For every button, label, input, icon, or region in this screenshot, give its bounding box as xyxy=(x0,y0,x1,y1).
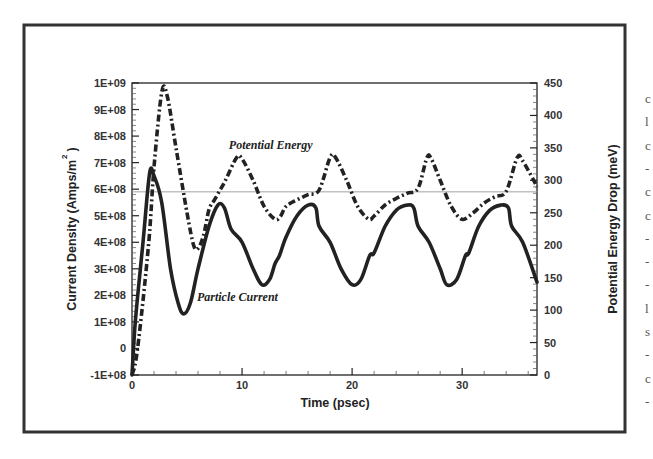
ylabel-superscript: 2 xyxy=(60,154,69,159)
x-tick-label: 0 xyxy=(129,379,135,391)
right-tick-label: 0 xyxy=(544,369,550,381)
right-tick-label: 450 xyxy=(544,77,562,89)
x-tick-label: 20 xyxy=(346,379,358,391)
ylabel-main: Current Density (Amps/m xyxy=(65,160,79,311)
x-tick-label: 30 xyxy=(456,379,468,391)
left-tick-label: 4E+08 xyxy=(94,236,126,248)
particle-current-annotation: Particle Current xyxy=(197,290,279,304)
x-tick-label: 10 xyxy=(236,379,248,391)
ylabel-close: ) xyxy=(65,147,79,151)
edge-character: c xyxy=(645,371,651,386)
right-tick-label: 150 xyxy=(544,272,562,284)
potential-energy-annotation: Potential Energy xyxy=(229,138,313,152)
right-tick-label: 300 xyxy=(544,174,562,186)
edge-character: c xyxy=(645,208,651,223)
left-tick-label: 2E+08 xyxy=(94,289,126,301)
right-y-axis-title: Potential Energy Drop (meV) xyxy=(606,144,620,313)
edge-character: - xyxy=(645,231,649,246)
right-tick-label: 100 xyxy=(544,304,562,316)
left-tick-label: 7E+08 xyxy=(94,157,126,169)
edge-character: s xyxy=(645,324,650,339)
x-axis-title: Time (psec) xyxy=(300,396,369,410)
left-tick-label: 0 xyxy=(120,342,126,354)
left-tick-label: 5E+08 xyxy=(94,210,126,222)
edge-character: - xyxy=(645,254,649,269)
edge-character: c xyxy=(645,91,651,106)
left-tick-label: 1E+09 xyxy=(94,77,126,89)
left-tick-label: 3E+08 xyxy=(94,263,126,275)
right-tick-label: 350 xyxy=(544,142,562,154)
right-tick-label: 250 xyxy=(544,207,562,219)
edge-character: - xyxy=(645,161,649,176)
edge-character: - xyxy=(645,347,649,362)
right-tick-label: 50 xyxy=(544,337,556,349)
adjacent-page-text-fragment: clc-cc---ls-c- xyxy=(645,91,651,409)
edge-character: - xyxy=(645,277,649,292)
left-tick-label: 8E+08 xyxy=(94,130,126,142)
edge-character: c xyxy=(645,138,651,153)
left-tick-label: 6E+08 xyxy=(94,183,126,195)
svg-text:Potential Energy Drop (meV): Potential Energy Drop (meV) xyxy=(606,144,620,313)
edge-character: l xyxy=(645,114,649,129)
edge-character: l xyxy=(645,301,649,316)
dual-axis-line-chart: -1E+0801E+082E+083E+084E+085E+086E+087E+… xyxy=(0,0,653,459)
edge-character: c xyxy=(645,184,651,199)
left-tick-label: 1E+08 xyxy=(94,316,126,328)
edge-character: - xyxy=(645,394,649,409)
right-tick-label: 200 xyxy=(544,239,562,251)
left-tick-label: 9E+08 xyxy=(94,104,126,116)
right-tick-label: 400 xyxy=(544,109,562,121)
left-tick-label: -1E+08 xyxy=(90,369,126,381)
